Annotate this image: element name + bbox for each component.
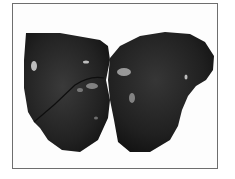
right-lobe xyxy=(108,32,214,152)
specimen-photo xyxy=(0,0,235,179)
